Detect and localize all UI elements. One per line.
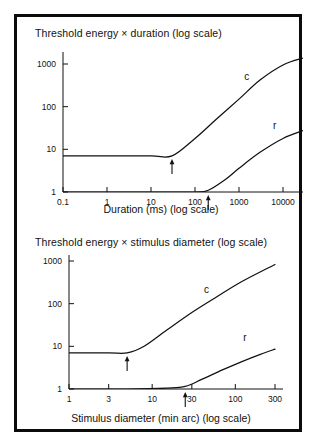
critical-duration-cone-arrow-icon <box>170 159 175 174</box>
chart-panel-duration: Threshold energy × duration (log scale) … <box>17 17 305 226</box>
x-tick-label: 10 <box>147 394 157 404</box>
y-tick-label: 10 <box>53 341 63 351</box>
y-tick-label: 100 <box>42 102 56 112</box>
data-curve-c <box>63 58 304 157</box>
x-tick-label: 100 <box>228 394 242 404</box>
y-tick-label: 1000 <box>37 59 56 69</box>
chart-panel-diameter: Threshold energy × stimulus diameter (lo… <box>17 226 305 435</box>
critical-diameter-cone-arrow-icon <box>125 356 130 371</box>
x-axis-label-diameter: Stimulus diameter (min arc) (log scale) <box>17 412 305 424</box>
figure-border: Threshold energy × duration (log scale) … <box>14 14 302 432</box>
plot-area-diameter: 1101001000131030100300cr <box>17 226 305 435</box>
x-tick-label: 30 <box>187 394 197 404</box>
data-curve-r <box>63 130 304 192</box>
curve-label-c: c <box>204 284 209 295</box>
y-tick-label: 1 <box>57 384 62 394</box>
x-tick-label: 1 <box>67 394 72 404</box>
curve-label-r: r <box>273 120 277 131</box>
y-tick-label: 1000 <box>43 256 62 266</box>
x-tick-label: 3 <box>106 394 111 404</box>
y-tick-label: 1 <box>51 187 56 197</box>
plot-area-duration: 11010010000.1110100100010000cr <box>17 17 305 226</box>
curve-label-c: c <box>244 71 249 82</box>
y-tick-label: 100 <box>48 299 62 309</box>
curve-label-r: r <box>243 332 247 343</box>
figure-root: Threshold energy × duration (log scale) … <box>0 0 316 446</box>
y-tick-label: 10 <box>47 144 57 154</box>
data-curve-r <box>69 349 275 389</box>
x-tick-label: 300 <box>268 394 282 404</box>
x-axis-label-duration: Duration (ms) (log scale) <box>17 203 305 215</box>
